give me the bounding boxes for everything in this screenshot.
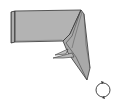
folded-paper-model [11,10,90,80]
spur-flap-upper [55,49,68,55]
turn-over-icon [96,81,110,99]
origami-diagram: origami-fold-step [0,0,119,107]
